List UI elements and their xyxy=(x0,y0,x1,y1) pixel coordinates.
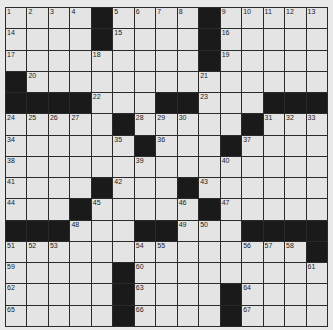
grid-cell[interactable]: 64 xyxy=(242,284,262,304)
grid-cell[interactable] xyxy=(264,284,284,304)
grid-cell[interactable]: 24 xyxy=(6,114,26,134)
grid-cell[interactable] xyxy=(178,51,198,71)
grid-cell[interactable] xyxy=(199,284,219,304)
grid-cell[interactable]: 38 xyxy=(6,157,26,177)
grid-cell[interactable] xyxy=(285,263,305,283)
grid-cell[interactable]: 22 xyxy=(92,93,112,113)
grid-cell[interactable] xyxy=(307,199,327,219)
grid-cell[interactable] xyxy=(27,306,47,326)
grid-cell[interactable]: 1 xyxy=(6,8,26,28)
grid-cell[interactable]: 58 xyxy=(285,242,305,262)
grid-cell[interactable]: 9 xyxy=(221,8,241,28)
grid-cell[interactable] xyxy=(70,263,90,283)
grid-cell[interactable] xyxy=(307,29,327,49)
grid-cell[interactable] xyxy=(285,51,305,71)
grid-cell[interactable]: 67 xyxy=(242,306,262,326)
grid-cell[interactable] xyxy=(92,242,112,262)
grid-cell[interactable] xyxy=(135,199,155,219)
grid-cell[interactable] xyxy=(135,29,155,49)
grid-cell[interactable] xyxy=(199,306,219,326)
grid-cell[interactable]: 45 xyxy=(92,199,112,219)
grid-cell[interactable]: 14 xyxy=(6,29,26,49)
grid-cell[interactable]: 33 xyxy=(307,114,327,134)
grid-cell[interactable] xyxy=(307,284,327,304)
grid-cell[interactable]: 27 xyxy=(70,114,90,134)
grid-cell[interactable] xyxy=(156,157,176,177)
grid-cell[interactable] xyxy=(178,284,198,304)
grid-cell[interactable]: 66 xyxy=(135,306,155,326)
grid-cell[interactable] xyxy=(70,51,90,71)
grid-cell[interactable] xyxy=(92,221,112,241)
grid-cell[interactable] xyxy=(49,157,69,177)
grid-cell[interactable]: 12 xyxy=(285,8,305,28)
grid-cell[interactable]: 42 xyxy=(113,178,133,198)
grid-cell[interactable]: 50 xyxy=(199,221,219,241)
grid-cell[interactable]: 4 xyxy=(70,8,90,28)
grid-cell[interactable] xyxy=(264,178,284,198)
grid-cell[interactable] xyxy=(264,263,284,283)
grid-cell[interactable] xyxy=(156,306,176,326)
grid-cell[interactable]: 19 xyxy=(221,51,241,71)
grid-cell[interactable] xyxy=(178,72,198,92)
grid-cell[interactable]: 46 xyxy=(178,199,198,219)
grid-cell[interactable]: 40 xyxy=(221,157,241,177)
grid-cell[interactable] xyxy=(156,284,176,304)
grid-cell[interactable] xyxy=(92,263,112,283)
grid-cell[interactable] xyxy=(92,284,112,304)
grid-cell[interactable]: 3 xyxy=(49,8,69,28)
grid-cell[interactable] xyxy=(307,157,327,177)
grid-cell[interactable]: 48 xyxy=(70,221,90,241)
grid-cell[interactable] xyxy=(49,284,69,304)
grid-cell[interactable] xyxy=(199,114,219,134)
grid-cell[interactable]: 6 xyxy=(135,8,155,28)
grid-cell[interactable] xyxy=(178,306,198,326)
grid-cell[interactable] xyxy=(156,199,176,219)
grid-cell[interactable] xyxy=(285,136,305,156)
grid-cell[interactable] xyxy=(285,284,305,304)
grid-cell[interactable]: 41 xyxy=(6,178,26,198)
grid-cell[interactable] xyxy=(264,51,284,71)
grid-cell[interactable] xyxy=(221,93,241,113)
grid-cell[interactable] xyxy=(199,242,219,262)
grid-cell[interactable] xyxy=(49,136,69,156)
grid-cell[interactable] xyxy=(307,51,327,71)
grid-cell[interactable]: 43 xyxy=(199,178,219,198)
grid-cell[interactable]: 51 xyxy=(6,242,26,262)
grid-cell[interactable]: 63 xyxy=(135,284,155,304)
grid-cell[interactable] xyxy=(285,306,305,326)
grid-cell[interactable] xyxy=(307,306,327,326)
grid-cell[interactable] xyxy=(221,114,241,134)
grid-cell[interactable] xyxy=(307,178,327,198)
grid-cell[interactable] xyxy=(49,29,69,49)
grid-cell[interactable]: 32 xyxy=(285,114,305,134)
grid-cell[interactable] xyxy=(27,284,47,304)
grid-cell[interactable] xyxy=(156,29,176,49)
grid-cell[interactable]: 35 xyxy=(113,136,133,156)
grid-cell[interactable] xyxy=(49,72,69,92)
grid-cell[interactable]: 25 xyxy=(27,114,47,134)
grid-cell[interactable]: 8 xyxy=(178,8,198,28)
grid-cell[interactable]: 30 xyxy=(178,114,198,134)
grid-cell[interactable] xyxy=(264,29,284,49)
grid-cell[interactable] xyxy=(264,72,284,92)
grid-cell[interactable] xyxy=(156,178,176,198)
grid-cell[interactable] xyxy=(49,178,69,198)
grid-cell[interactable] xyxy=(242,199,262,219)
grid-cell[interactable] xyxy=(221,242,241,262)
grid-cell[interactable]: 34 xyxy=(6,136,26,156)
grid-cell[interactable] xyxy=(178,136,198,156)
grid-cell[interactable] xyxy=(70,157,90,177)
grid-cell[interactable] xyxy=(135,51,155,71)
grid-cell[interactable] xyxy=(264,199,284,219)
grid-cell[interactable] xyxy=(285,157,305,177)
grid-cell[interactable] xyxy=(92,157,112,177)
grid-cell[interactable]: 47 xyxy=(221,199,241,219)
grid-cell[interactable] xyxy=(242,263,262,283)
grid-cell[interactable]: 52 xyxy=(27,242,47,262)
grid-cell[interactable]: 7 xyxy=(156,8,176,28)
grid-cell[interactable]: 13 xyxy=(307,8,327,28)
grid-cell[interactable] xyxy=(92,72,112,92)
grid-cell[interactable]: 56 xyxy=(242,242,262,262)
grid-cell[interactable] xyxy=(242,157,262,177)
grid-cell[interactable] xyxy=(135,93,155,113)
